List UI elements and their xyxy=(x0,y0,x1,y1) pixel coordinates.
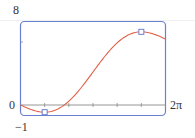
viewing-window-frame xyxy=(21,22,166,116)
local-minimum-marker xyxy=(42,110,47,115)
function-curve xyxy=(21,32,166,112)
local-maximum-marker xyxy=(139,29,144,34)
function-plot xyxy=(0,0,195,138)
